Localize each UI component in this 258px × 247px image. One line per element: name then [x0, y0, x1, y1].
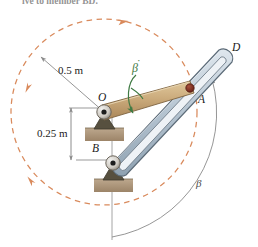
slider-pin-icon-a[interactable] — [186, 84, 194, 92]
beta-angle-label: β — [196, 178, 201, 189]
point-label-o: O — [98, 92, 106, 104]
dimension-label-inner: 0.25 m — [37, 128, 68, 139]
ground-block-b — [94, 179, 133, 192]
point-label-b: B — [92, 143, 99, 155]
beta-dot-accent: ˙ — [136, 58, 140, 70]
point-label-a: A — [198, 94, 205, 106]
pivot-hub-b — [106, 156, 120, 170]
mechanism-diagram — [0, 0, 258, 247]
beta-dot-label: ˙ β — [132, 62, 138, 74]
pivot-hub-o — [97, 105, 111, 119]
point-label-d: D — [232, 42, 240, 54]
dimension-label-outer: 0.5 m — [58, 65, 83, 76]
ground-block-o — [85, 128, 124, 141]
figure-container: ive to member BD. — [0, 0, 258, 247]
